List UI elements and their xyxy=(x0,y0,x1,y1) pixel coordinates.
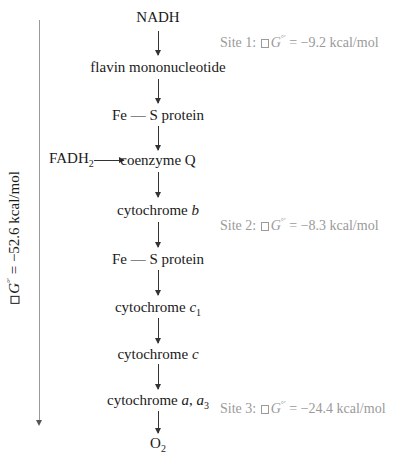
node-cytochrome-c: cytochrome c xyxy=(117,345,198,363)
g-symbol: G xyxy=(271,401,281,416)
delta-symbol-icon xyxy=(261,39,269,48)
g-symbol: G xyxy=(271,35,281,50)
node-fmn: flavin mononucleotide xyxy=(90,58,225,76)
arrow-down xyxy=(158,270,159,295)
fadh-subscript: 2 xyxy=(89,158,94,169)
g-symbol: G xyxy=(6,283,22,294)
node-cytochrome-b: cytochrome b xyxy=(117,201,199,219)
node-fadh2: FADH2 xyxy=(49,150,94,167)
label: O xyxy=(150,435,161,451)
equals: = xyxy=(6,262,22,278)
site-3-energy: Site 3: G°′ = −24.4 kcal/mol xyxy=(220,401,386,417)
node-cytochrome-c1: cytochrome c1 xyxy=(115,298,201,316)
site-2-energy: Site 2: G°′ = −8.3 kcal/mol xyxy=(220,218,379,234)
node-nadh: NADH xyxy=(136,8,179,26)
arrow-down xyxy=(158,411,159,433)
label: cytochrome xyxy=(117,346,192,362)
label-italic-2: a xyxy=(197,392,205,408)
fadh-label: FADH xyxy=(49,150,89,166)
site-label: Site 3: xyxy=(220,401,260,416)
total-energy-label: G°′ = −52.6 kcal/mol xyxy=(6,171,23,305)
arrow-down xyxy=(158,172,159,197)
standard-prime: °′ xyxy=(6,278,15,283)
label: cytochrome xyxy=(107,392,182,408)
equals: = xyxy=(286,218,301,233)
site-label: Site 1: xyxy=(220,35,260,50)
label-subscript: 1 xyxy=(196,307,201,318)
label-italic: a xyxy=(182,392,190,408)
label-italic: b xyxy=(192,202,200,218)
site-label: Site 2: xyxy=(220,218,260,233)
arrow-down xyxy=(158,364,159,389)
node-fe-s-protein-1: Fe — S protein xyxy=(112,106,204,124)
site-value: −9.2 kcal/mol xyxy=(301,35,379,50)
arrow-down xyxy=(158,318,159,343)
g-symbol: G xyxy=(271,218,281,233)
site-value: −8.3 kcal/mol xyxy=(301,218,379,233)
site-value: −24.4 kcal/mol xyxy=(301,401,386,416)
equals: = xyxy=(286,401,301,416)
site-1-energy: Site 1: G°′ = −9.2 kcal/mol xyxy=(220,35,379,51)
label-italic: c xyxy=(192,346,199,362)
label-subscript: 2 xyxy=(161,443,166,454)
delta-symbol-icon xyxy=(11,296,20,304)
label: cytochrome xyxy=(117,202,192,218)
node-fe-s-protein-2: Fe — S protein xyxy=(112,250,204,268)
label-subscript: 3 xyxy=(204,400,209,411)
node-cytochrome-a-a3: cytochrome a, a3 xyxy=(107,391,209,409)
arrow-down xyxy=(158,222,159,247)
delta-symbol-icon xyxy=(261,222,269,231)
arrow-down xyxy=(158,79,159,103)
arrow-down xyxy=(158,31,159,55)
node-o2: O2 xyxy=(150,434,166,452)
total-energy-arrow xyxy=(39,20,40,424)
node-coenzyme-q: coenzyme Q xyxy=(120,151,195,169)
label-sep: , xyxy=(189,392,197,408)
delta-symbol-icon xyxy=(261,405,269,414)
arrow-down xyxy=(158,126,159,150)
total-value: −52.6 kcal/mol xyxy=(6,171,22,262)
equals: = xyxy=(286,35,301,50)
label: cytochrome xyxy=(115,299,190,315)
